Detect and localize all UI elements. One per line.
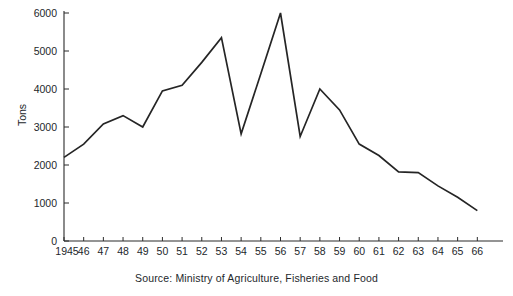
y-axis-title: Tons (16, 104, 28, 126)
x-tick-label: 1945 (55, 245, 79, 257)
line-chart: 0100020003000400050006000 19454647484950… (0, 0, 513, 296)
x-tick-label: 61 (373, 245, 385, 257)
x-tick-label: 56 (275, 245, 287, 257)
y-tick-label: 4000 (34, 83, 58, 95)
y-tick-label: 6000 (34, 7, 58, 19)
x-tick-label: 49 (137, 245, 149, 257)
chart-figure: 0100020003000400050006000 19454647484950… (0, 0, 513, 296)
y-tick-label: 1000 (34, 197, 58, 209)
x-tick-label: 47 (98, 245, 110, 257)
x-tick-label: 55 (255, 245, 267, 257)
x-tick-label: 66 (471, 245, 483, 257)
source-note: Source: Ministry of Agriculture, Fisheri… (0, 272, 513, 284)
x-tick-label: 54 (235, 245, 247, 257)
x-tick-label: 63 (412, 245, 424, 257)
x-tick-label: 64 (432, 245, 444, 257)
x-tick-label: 65 (452, 245, 464, 257)
x-tick-label: 50 (157, 245, 169, 257)
x-tick-label: 52 (196, 245, 208, 257)
x-tick-label: 46 (78, 245, 90, 257)
y-tick-label: 3000 (34, 121, 58, 133)
data-series-line (64, 13, 477, 211)
x-tick-label: 59 (334, 245, 346, 257)
y-tick-label: 5000 (34, 45, 58, 57)
x-tick-label: 58 (314, 245, 326, 257)
x-tick-label: 57 (294, 245, 306, 257)
y-tick-label: 2000 (34, 159, 58, 171)
x-tick-label: 51 (176, 245, 188, 257)
x-tick-label: 62 (393, 245, 405, 257)
x-axis-ticks: 1945464748495051525354555657585960616263… (55, 237, 483, 257)
x-tick-label: 53 (216, 245, 228, 257)
x-tick-label: 48 (117, 245, 129, 257)
x-tick-label: 60 (353, 245, 365, 257)
